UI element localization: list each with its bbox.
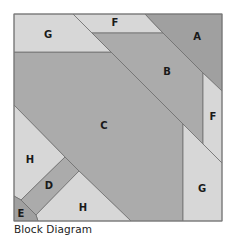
- diagram-caption: Block Diagram: [14, 223, 92, 235]
- label-f-right: F: [210, 111, 217, 122]
- label-h-bottom: H: [79, 202, 87, 213]
- label-a: A: [193, 31, 201, 42]
- label-d: D: [45, 180, 53, 191]
- label-g-top: G: [44, 29, 52, 40]
- label-c: C: [100, 120, 107, 131]
- label-e: E: [18, 208, 25, 219]
- block-diagram: A B C D E F F G G H H: [0, 0, 235, 238]
- label-b: B: [163, 66, 171, 77]
- label-g-right: G: [198, 183, 206, 194]
- label-f-top: F: [112, 17, 119, 28]
- label-h-left: H: [26, 154, 34, 165]
